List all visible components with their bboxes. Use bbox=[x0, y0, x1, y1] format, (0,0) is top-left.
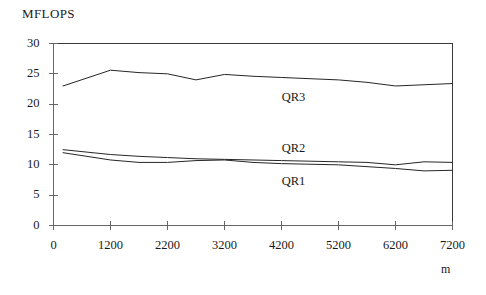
y-tick-label: 15 bbox=[14, 127, 40, 142]
x-tick-label: 7200 bbox=[423, 238, 483, 253]
series-label-qr1: QR1 bbox=[282, 174, 306, 189]
x-tick-label: 1200 bbox=[81, 238, 141, 253]
series-label-qr2: QR2 bbox=[282, 141, 306, 156]
axis-ticks bbox=[49, 44, 453, 230]
x-tick-label: 5200 bbox=[309, 238, 369, 253]
chart-container: MFLOPS m 051015202530 012002200320042005… bbox=[0, 0, 486, 295]
x-tick-label: 2200 bbox=[138, 238, 198, 253]
series-label-qr3: QR3 bbox=[282, 90, 306, 105]
x-tick-label: 3200 bbox=[195, 238, 255, 253]
y-tick-label: 30 bbox=[14, 36, 40, 51]
y-tick-label: 10 bbox=[14, 157, 40, 172]
y-tick-label: 25 bbox=[14, 66, 40, 81]
series-line-qr3 bbox=[63, 70, 453, 86]
x-tick-label: 6200 bbox=[366, 238, 426, 253]
x-tick-label: 0 bbox=[24, 238, 84, 253]
data-series-group bbox=[63, 70, 453, 171]
y-tick-label: 20 bbox=[14, 96, 40, 111]
y-tick-label: 5 bbox=[14, 187, 40, 202]
x-tick-label: 4200 bbox=[252, 238, 312, 253]
y-tick-label: 0 bbox=[14, 218, 40, 233]
